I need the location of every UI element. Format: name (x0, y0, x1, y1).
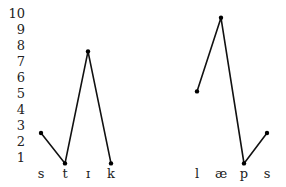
segment-label: k (107, 166, 115, 181)
segment-label: t (62, 166, 68, 181)
segment-label: p (240, 166, 248, 181)
sonority-chart: 12345678910 stɪklæps (0, 0, 286, 187)
segment-label: l (195, 166, 199, 181)
data-point (63, 161, 67, 165)
data-point (219, 16, 223, 20)
data-point (86, 49, 90, 53)
plot-area (39, 16, 269, 166)
segment-label: s (264, 166, 271, 181)
y-tick-label: 6 (17, 70, 25, 85)
y-tick-label: 8 (17, 38, 25, 53)
data-point (265, 131, 269, 135)
segment-label: ɪ (86, 166, 90, 181)
y-tick-label: 10 (8, 6, 25, 21)
y-tick-label: 5 (17, 86, 25, 101)
y-tick-label: 2 (17, 134, 25, 149)
segment-label: æ (215, 166, 227, 181)
y-tick-label: 9 (17, 22, 25, 37)
data-point (39, 131, 43, 135)
y-tick-label: 1 (17, 150, 25, 165)
y-axis-ticks: 12345678910 (8, 6, 25, 165)
segment-labels: stɪklæps (38, 166, 271, 181)
data-point (242, 161, 246, 165)
series-line (197, 18, 267, 164)
data-point (195, 89, 199, 93)
y-tick-label: 7 (17, 54, 25, 69)
series-line (41, 51, 111, 163)
data-point (109, 161, 113, 165)
y-tick-label: 4 (17, 102, 25, 117)
y-tick-label: 3 (17, 118, 25, 133)
segment-label: s (38, 166, 45, 181)
